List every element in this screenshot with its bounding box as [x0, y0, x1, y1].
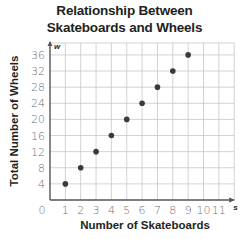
y-tick-label: 16	[31, 130, 45, 143]
data-point	[124, 117, 130, 123]
y-axis-label: Total Number of Wheels	[8, 56, 20, 187]
x-tick-label: 1	[62, 204, 69, 217]
y-axis-variable: w	[54, 42, 61, 51]
scatter-plot: ws481216202428323601234567891011	[0, 0, 249, 239]
y-tick-label: 12	[31, 146, 45, 159]
data-point	[109, 133, 115, 139]
y-tick-label: 8	[38, 162, 45, 175]
y-tick-label: 28	[31, 81, 45, 94]
y-axis-arrow-icon	[48, 41, 53, 46]
y-tick-label: 20	[31, 113, 45, 126]
x-tick-labels: 01234567891011	[39, 204, 226, 217]
x-tick-label: 2	[77, 204, 84, 217]
x-tick-label: 7	[154, 204, 161, 217]
y-tick-labels: 4812162024283236	[31, 49, 45, 191]
x-tick-label: 3	[93, 204, 100, 217]
x-tick-label: 6	[139, 204, 146, 217]
y-tick-label: 36	[31, 49, 45, 62]
x-tick-label: 4	[108, 204, 115, 217]
x-tick-label: 9	[185, 204, 192, 217]
x-tick-label: 5	[123, 204, 130, 217]
data-point	[155, 84, 161, 90]
x-axis-label: Number of Skateboards	[50, 219, 240, 231]
y-tick-label: 32	[31, 65, 45, 78]
data-point	[63, 181, 69, 187]
data-point	[170, 68, 176, 74]
y-tick-label: 24	[31, 97, 45, 110]
x-axis-variable: s	[233, 203, 238, 212]
data-point	[139, 100, 145, 106]
x-tick-label: 8	[169, 204, 176, 217]
data-point	[185, 52, 191, 58]
y-tick-label: 4	[38, 178, 45, 191]
x-tick-label: 11	[212, 204, 226, 217]
x-tick-label: 10	[197, 204, 211, 217]
data-point	[78, 165, 84, 171]
x-tick-label: 0	[39, 204, 46, 217]
grid-lines	[50, 43, 234, 200]
data-point	[93, 149, 99, 155]
